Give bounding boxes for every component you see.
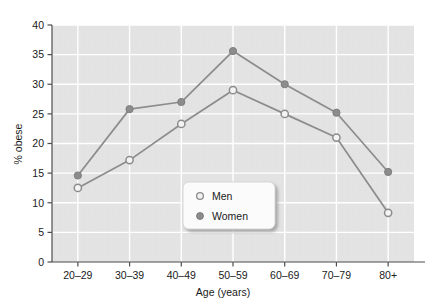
chart-svg: 0510152025303540 20–2930–3940–4950–5960–… bbox=[0, 0, 436, 306]
y-axis-ticks: 0510152025303540 bbox=[32, 19, 52, 268]
y-axis-title: % obese bbox=[12, 123, 24, 164]
y-tick-label: 10 bbox=[32, 197, 44, 209]
data-point-women-4 bbox=[281, 81, 288, 88]
data-point-women-0 bbox=[74, 172, 81, 179]
data-point-men-1 bbox=[126, 156, 133, 163]
x-tick-label: 30–39 bbox=[115, 269, 144, 281]
obesity-by-age-line-chart: 0510152025303540 20–2930–3940–4950–5960–… bbox=[0, 0, 436, 306]
legend-marker-men bbox=[197, 193, 204, 200]
data-point-women-2 bbox=[178, 98, 185, 105]
x-tick-label: 50–59 bbox=[218, 269, 247, 281]
x-axis-title: Age (years) bbox=[196, 286, 250, 298]
x-tick-label: 20–29 bbox=[63, 269, 92, 281]
data-point-women-1 bbox=[126, 106, 133, 113]
data-point-women-5 bbox=[333, 109, 340, 116]
y-tick-label: 15 bbox=[32, 167, 44, 179]
x-tick-label: 80+ bbox=[379, 269, 397, 281]
legend-label-men: Men bbox=[212, 190, 233, 202]
legend-label-women: Women bbox=[212, 210, 248, 222]
data-point-men-3 bbox=[229, 87, 236, 94]
data-point-men-0 bbox=[74, 184, 81, 191]
y-tick-label: 20 bbox=[32, 137, 44, 149]
chart-legend: Men Women bbox=[183, 182, 275, 229]
x-axis-ticks: 20–2930–3940–4950–5960–6970–7980+ bbox=[63, 262, 397, 281]
x-tick-label: 60–69 bbox=[270, 269, 299, 281]
data-point-men-4 bbox=[281, 110, 288, 117]
data-point-women-3 bbox=[229, 47, 236, 54]
x-tick-label: 40–49 bbox=[167, 269, 196, 281]
y-tick-label: 0 bbox=[38, 256, 44, 268]
x-tick-label: 70–79 bbox=[322, 269, 351, 281]
data-point-men-5 bbox=[333, 134, 340, 141]
y-tick-label: 40 bbox=[32, 19, 44, 31]
y-tick-label: 25 bbox=[32, 108, 44, 120]
legend-marker-women bbox=[197, 213, 204, 220]
y-tick-label: 30 bbox=[32, 78, 44, 90]
data-point-men-2 bbox=[178, 120, 185, 127]
data-point-women-6 bbox=[385, 168, 392, 175]
y-tick-label: 5 bbox=[38, 226, 44, 238]
data-point-men-6 bbox=[385, 209, 392, 216]
y-tick-label: 35 bbox=[32, 48, 44, 60]
